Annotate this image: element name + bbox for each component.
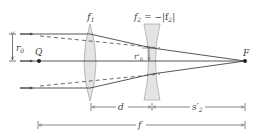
- ray-top-to-focus: [152, 48, 245, 61]
- point-q: [37, 59, 41, 63]
- label-f-total: f: [137, 120, 143, 130]
- label-q: Q: [35, 47, 43, 57]
- label-f1: f1: [86, 11, 95, 23]
- ray-bottom-between-lenses: [90, 74, 152, 88]
- label-r0-prime: r′0: [134, 52, 144, 62]
- ray-bottom-to-focus: [152, 61, 245, 74]
- ray-top-between-lenses: [90, 34, 152, 48]
- converging-lens-f1: [84, 24, 96, 101]
- diverging-lens-f2: [144, 24, 160, 100]
- label-r0: r0: [16, 43, 24, 54]
- focal-point-f: [243, 59, 247, 63]
- telephoto-ray-diagram: f1 f2 = −|f2| r0 Q r′0 F d s′2 f: [0, 0, 257, 138]
- label-f2: f2 = −|f2|: [133, 12, 175, 23]
- label-d: d: [118, 102, 124, 112]
- label-focal-point: F: [242, 48, 250, 58]
- label-s2-prime: s′2: [192, 102, 203, 113]
